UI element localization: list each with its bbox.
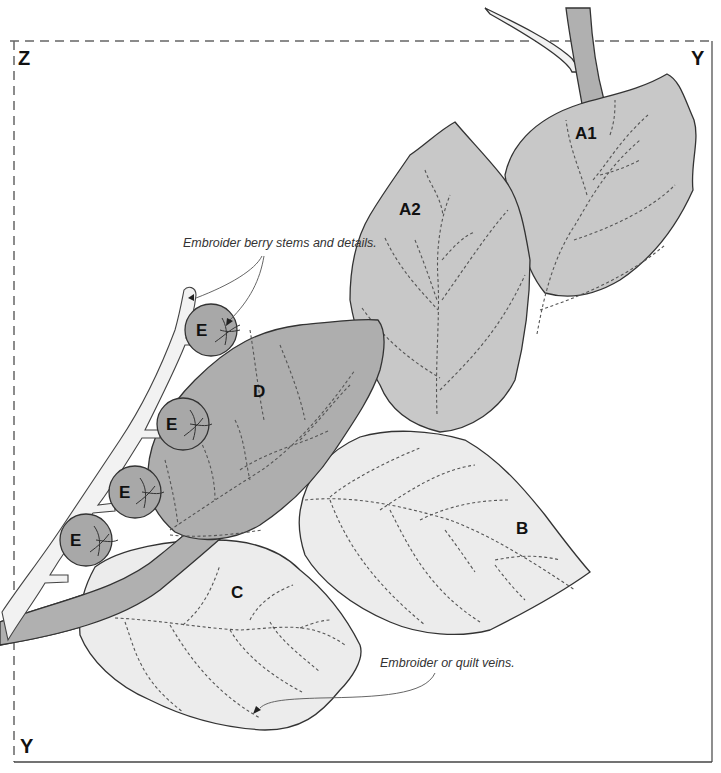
annotation-berry-stems: Embroider berry stems and details.: [183, 236, 377, 250]
leaf-A1: [505, 74, 696, 296]
berry-E1: E: [185, 304, 240, 356]
leaf-B-label: B: [516, 519, 528, 538]
berry-E1-label: E: [196, 321, 207, 340]
corner-label-top-right: Y: [691, 47, 705, 69]
vine-stem-top: [566, 8, 604, 104]
corner-label-bottom-left: Y: [20, 735, 34, 757]
berry-E2-label: E: [166, 415, 177, 434]
leaf-D-label: D: [253, 382, 265, 401]
applique-pattern-diagram: E E E E A1 A2 B C D Z Y Y Embroider berr…: [0, 0, 721, 773]
berry-E3-label: E: [119, 483, 130, 502]
leader-line-berry-stem: [196, 256, 262, 298]
corner-label-top-left: Z: [18, 47, 30, 69]
leaf-B: [299, 431, 590, 634]
leaf-A2: [350, 122, 530, 432]
top-light-branch: [485, 8, 578, 72]
leaf-A1-label: A1: [575, 124, 597, 143]
leaf-C-label: C: [231, 583, 243, 602]
leaf-A2-label: A2: [399, 200, 421, 219]
berry-E4-label: E: [70, 531, 81, 550]
leader-line-berry: [230, 256, 264, 320]
annotation-veins: Embroider or quilt veins.: [380, 656, 515, 670]
